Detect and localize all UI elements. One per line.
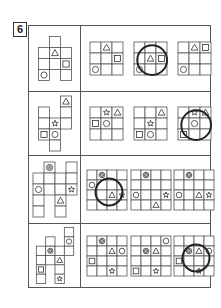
options-cell: [81, 224, 210, 287]
net-diagram: [29, 224, 81, 287]
net-diagram: [29, 26, 81, 91]
net-cell: [29, 26, 81, 91]
puzzle-row-2: [29, 92, 210, 156]
answer-option[interactable]: [131, 39, 170, 78]
net-diagram: [29, 92, 81, 155]
answer-option[interactable]: [175, 104, 214, 143]
net-cell: [29, 156, 81, 223]
answer-option[interactable]: [87, 39, 126, 78]
answer-option[interactable]: [128, 167, 174, 213]
question-number: 6: [13, 22, 27, 37]
net-diagram: [29, 156, 81, 223]
puzzle-row-4: [29, 224, 210, 287]
options-cell: [81, 26, 210, 91]
puzzle-row-1: [29, 26, 210, 92]
target-icon: [48, 248, 53, 253]
answer-option[interactable]: [171, 233, 217, 279]
puzzle-row-3: [29, 156, 210, 224]
answer-option[interactable]: [87, 104, 126, 143]
net-cell: [29, 224, 81, 287]
answer-option[interactable]: [171, 167, 217, 213]
net-cell: [29, 92, 81, 155]
answer-option[interactable]: [84, 167, 130, 213]
answer-option[interactable]: [128, 233, 174, 279]
options-cell: [81, 92, 210, 155]
puzzle-table: [28, 25, 211, 288]
answer-option[interactable]: [131, 104, 170, 143]
answer-option[interactable]: [175, 39, 214, 78]
options-cell: [81, 156, 210, 223]
answer-option[interactable]: [84, 233, 130, 279]
